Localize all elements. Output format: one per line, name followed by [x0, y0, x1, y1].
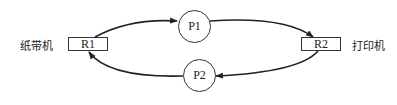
process-p2-label: P2: [193, 68, 206, 83]
edge-r1-to-p1: [95, 21, 177, 37]
resource-allocation-diagram: 纸带机 R1 R2 打印机 P1 P2: [0, 0, 397, 105]
edge-r2-to-p2: [216, 51, 318, 76]
resource-r1: R1: [68, 37, 108, 51]
process-p1-label: P1: [188, 19, 201, 34]
edge-p2-to-r1: [89, 52, 183, 76]
process-p1: P1: [178, 10, 211, 43]
resource-r2: R2: [301, 37, 341, 51]
right-device-label: 打印机: [352, 37, 397, 53]
process-p2: P2: [183, 59, 216, 92]
edge-p1-to-r2: [210, 20, 313, 37]
left-device-label: 纸带机: [20, 37, 53, 53]
